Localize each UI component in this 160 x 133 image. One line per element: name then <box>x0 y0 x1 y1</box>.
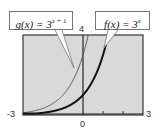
x-origin-label: 0 <box>80 120 85 129</box>
y-max-label: 4 <box>79 25 84 34</box>
x-max-label: 3 <box>146 110 151 119</box>
g-label-exponent: x + 1 <box>52 17 67 25</box>
f-function-label: f(x) = 3x <box>95 11 150 30</box>
g-function-label: g(x) = 3x + 1 <box>9 11 73 30</box>
f-label-exponent: x <box>138 17 141 25</box>
f-label-text: f(x) = 3 <box>104 18 138 30</box>
x-min-label: -3 <box>7 110 15 119</box>
g-label-text: g(x) = 3 <box>16 18 52 30</box>
